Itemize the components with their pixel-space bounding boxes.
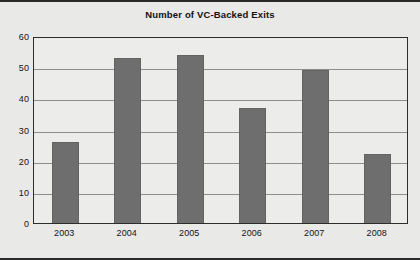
y-axis-tick-label: 10 xyxy=(0,188,29,198)
y-axis-tick-label: 30 xyxy=(0,126,29,136)
y-axis-tick-label: 50 xyxy=(0,63,29,73)
bar-series xyxy=(34,38,407,223)
bar xyxy=(52,142,79,223)
chart-figure: Number of VC-Backed Exits 0102030405060 … xyxy=(0,0,420,260)
x-axis-tick-label: 2004 xyxy=(97,228,157,238)
x-axis-tick-labels: 200320042005200620072008 xyxy=(33,228,408,244)
bar xyxy=(177,55,204,223)
y-axis-tick-label: 0 xyxy=(0,219,29,229)
y-axis-tick-labels: 0102030405060 xyxy=(0,37,29,224)
bar xyxy=(364,154,391,223)
x-axis-tick-label: 2006 xyxy=(222,228,282,238)
x-axis-tick-label: 2008 xyxy=(347,228,407,238)
bar xyxy=(239,108,266,223)
x-axis-tick-label: 2003 xyxy=(34,228,94,238)
x-axis-tick-label: 2007 xyxy=(284,228,344,238)
bar xyxy=(114,58,141,223)
chart-title: Number of VC-Backed Exits xyxy=(0,9,420,20)
x-axis-tick-label: 2005 xyxy=(159,228,219,238)
y-axis-tick-label: 60 xyxy=(0,32,29,42)
bar xyxy=(302,70,329,223)
y-axis-tick-label: 40 xyxy=(0,94,29,104)
plot-area xyxy=(33,37,408,224)
y-axis-tick-label: 20 xyxy=(0,157,29,167)
